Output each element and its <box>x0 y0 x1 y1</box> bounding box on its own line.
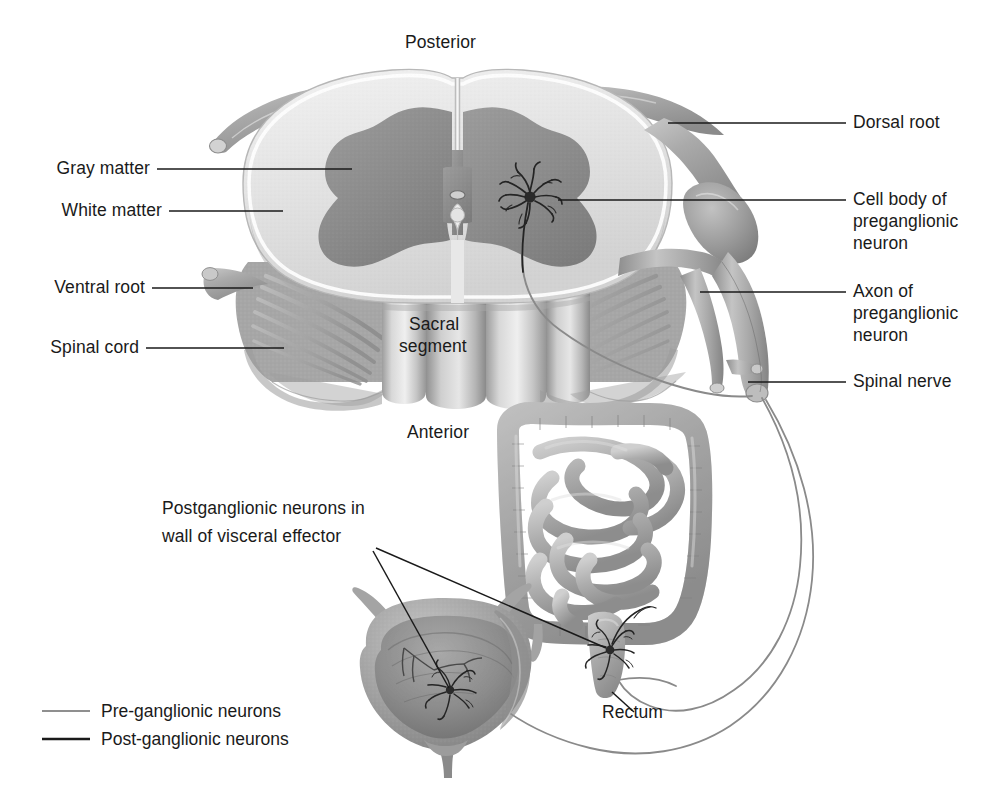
legend-label-pre-ganglionic: Pre-ganglionic neurons <box>101 701 281 722</box>
label-spinal-nerve: Spinal nerve <box>853 371 951 392</box>
label-cell-body-line2: preganglionic <box>853 211 958 232</box>
label-white-matter: White matter <box>0 200 162 221</box>
label-postganglionic-line2: wall of visceral effector <box>162 526 341 547</box>
legend-label-post-ganglionic: Post-ganglionic neurons <box>101 729 289 750</box>
label-cell-body-line3: neuron <box>853 233 908 254</box>
orientation-label-posterior: Posterior <box>405 32 476 53</box>
label-axon-line2: preganglionic <box>853 303 958 324</box>
label-cell-body-line1: Cell body of <box>853 189 947 210</box>
label-gray-matter: Gray matter <box>0 158 150 179</box>
central-canal <box>450 191 465 199</box>
label-postganglionic-line1: Postganglionic neurons in <box>162 498 365 519</box>
spinal-cord-cross-section <box>243 68 672 311</box>
label-spinal-cord: Spinal cord <box>0 337 139 358</box>
cord-overlay-line2: segment <box>399 336 467 357</box>
label-dorsal-root: Dorsal root <box>853 112 940 133</box>
small-intestine <box>533 444 677 624</box>
label-axon-line1: Axon of <box>853 281 913 302</box>
label-ventral-root: Ventral root <box>0 277 145 298</box>
rectum <box>588 612 625 698</box>
figure-canvas: Posterior Anterior Sacral segment Gray m… <box>0 0 1005 786</box>
label-axon-line3: neuron <box>853 325 908 346</box>
spinal-nerve-branch <box>680 268 724 386</box>
rectum-body <box>588 612 625 698</box>
cord-overlay-line1: Sacral <box>409 314 459 335</box>
urinary-bladder <box>352 583 531 778</box>
orientation-label-anterior: Anterior <box>407 422 469 443</box>
label-rectum: Rectum <box>602 702 663 723</box>
spinal-nerve-terminal <box>746 384 768 402</box>
legend-swatches <box>42 711 90 739</box>
